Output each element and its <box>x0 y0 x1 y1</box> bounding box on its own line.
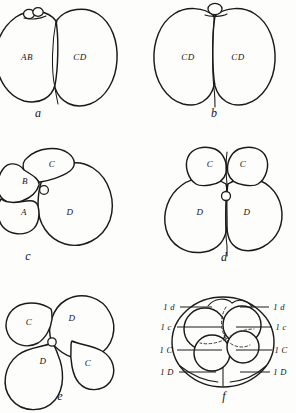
polar-body-icon <box>48 338 56 346</box>
figure-a: AB CD a <box>0 0 130 120</box>
cell-label: C <box>207 159 213 169</box>
cell-a-outline <box>0 199 39 234</box>
figure-e: C D D C e <box>0 285 145 413</box>
leader-label-right-1C: 1 C <box>275 345 288 355</box>
figure-b-drawing <box>150 0 296 120</box>
cell-label: AB <box>21 52 33 62</box>
figure-letter: b <box>211 106 217 121</box>
figure-letter: d <box>221 250 227 265</box>
cell-label: D <box>197 207 204 217</box>
polar-body-icon <box>33 8 43 17</box>
illustration-plate: AB CD a CD CD b <box>0 0 296 413</box>
leader-label-right-1D: 1 D <box>273 367 286 377</box>
figure-b: CD CD b <box>150 0 296 120</box>
figure-letter: f <box>222 389 225 404</box>
figure-letter: e <box>57 389 62 404</box>
figure-c: B C A D c <box>0 140 140 270</box>
cell-label: C <box>26 317 32 327</box>
polar-body-icon <box>222 192 231 201</box>
leader-label-left-1C: 1 C <box>160 345 173 355</box>
figure-letter: a <box>35 106 41 121</box>
cell-label: A <box>21 207 27 217</box>
cell-label: C <box>85 358 91 368</box>
cell-label: D <box>244 207 251 217</box>
polar-body-icon <box>208 3 222 14</box>
leader-label-left-1d: 1 d <box>163 302 175 312</box>
cell-label: D <box>40 356 47 366</box>
cell-label: C <box>49 159 55 169</box>
cell-label: D <box>69 313 76 323</box>
figure-a-drawing <box>0 0 130 120</box>
figure-c-drawing <box>0 140 140 270</box>
figure-f: 1 d 1 c 1 C 1 D 1 d 1 c 1 C 1 D f <box>150 285 296 413</box>
figure-e-drawing <box>0 285 145 413</box>
cell-d-right-outline <box>227 179 282 251</box>
cell-label: C <box>240 159 246 169</box>
figure-letter: c <box>25 249 30 264</box>
cell-label: CD <box>181 52 194 62</box>
cell-label: D <box>67 207 74 217</box>
cell-d-bottom-outline <box>5 343 62 410</box>
polar-body-icon <box>40 186 49 195</box>
leader-label-left-1D: 1 D <box>160 367 173 377</box>
cell-label: B <box>22 176 28 186</box>
cell-label: CD <box>231 52 244 62</box>
leader-label-right-1c: 1 c <box>275 322 286 332</box>
cell-label: CD <box>73 52 86 62</box>
leader-label-right-1d: 1 d <box>273 302 285 312</box>
figure-d: C C D D d <box>150 140 296 270</box>
leader-label-left-1c: 1 c <box>160 322 171 332</box>
cell-c-right-outline <box>227 147 267 185</box>
